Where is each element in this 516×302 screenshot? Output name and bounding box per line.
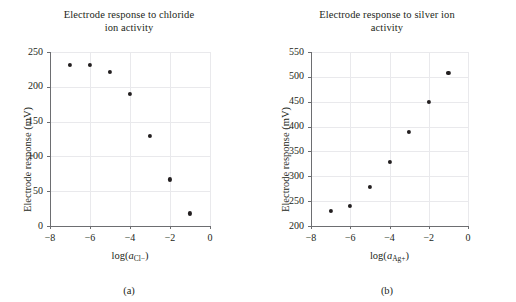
panel-a-caption: (a) xyxy=(0,285,258,296)
panel-a: Electrode response to chloride ion activ… xyxy=(0,0,258,302)
panel-b-y-tick-label: 300 xyxy=(271,170,304,181)
panel-a-gridline-vertical xyxy=(170,52,171,226)
panel-b-x-tick-label: −8 xyxy=(295,232,327,243)
panel-b-y-tick-label: 250 xyxy=(271,195,304,206)
panel-b-title-line1: Electrode response to silver ion xyxy=(319,9,455,20)
panel-b-y-tick-label: 350 xyxy=(271,145,304,156)
panel-a-data-point xyxy=(148,134,152,138)
panel-b-data-point xyxy=(348,204,352,208)
panel-a-xlabel-suffix: ) xyxy=(145,250,149,261)
panel-a-y-tick-label: 250 xyxy=(10,46,43,57)
figure-two-panel-scatter: Electrode response to chloride ion activ… xyxy=(0,0,516,302)
panel-a-title-line2: ion activity xyxy=(0,21,258,34)
panel-b-data-point xyxy=(368,185,372,189)
panel-a-x-tick-label: −2 xyxy=(154,232,186,243)
panel-a-y-tick-label: 0 xyxy=(10,220,43,231)
panel-b-plot-area: 200250300350400450500550−8−6−4−20 xyxy=(311,52,468,226)
panel-b-data-point xyxy=(387,160,391,164)
panel-b-xlabel-prefix: log( xyxy=(370,250,387,261)
panel-a-x-axis-line xyxy=(50,226,210,227)
panel-b-gridline-vertical xyxy=(350,52,351,226)
panel-b-xlabel-subscript: Ag+ xyxy=(392,254,405,263)
panel-b-y-tick-label: 500 xyxy=(271,70,304,81)
panel-b-x-axis-label: log(aAg+) xyxy=(311,250,468,263)
panel-a-y-tick-label: 100 xyxy=(10,150,43,161)
panel-b-title-line2: activity xyxy=(258,21,516,34)
panel-b-y-tick-label: 400 xyxy=(271,120,304,131)
panel-a-data-point xyxy=(128,92,132,96)
panel-b-x-tick xyxy=(468,226,469,229)
panel-b-caption: (b) xyxy=(258,285,516,296)
panel-b-x-tick-label: −2 xyxy=(413,232,445,243)
panel-a-y-tick-label: 150 xyxy=(10,115,43,126)
panel-b-y-tick-label: 550 xyxy=(271,46,304,57)
panel-a-data-point xyxy=(88,62,92,66)
panel-b-xlabel-suffix: ) xyxy=(406,250,410,261)
panel-a-data-point xyxy=(68,62,72,66)
panel-b-x-tick-label: −6 xyxy=(334,232,366,243)
panel-b-gridline-vertical xyxy=(468,52,469,226)
panel-a-xlabel-prefix: log( xyxy=(112,250,129,261)
panel-a-gridline-vertical xyxy=(210,52,211,226)
panel-b-data-point xyxy=(329,208,333,212)
panel-b-gridline-vertical xyxy=(429,52,430,226)
panel-a-title-line1: Electrode response to chloride xyxy=(64,9,194,20)
panel-a-x-tick xyxy=(210,226,211,229)
panel-a-plot-area: 050100150200250−8−6−4−20 xyxy=(50,52,210,226)
panel-b-y-axis-line xyxy=(311,52,312,226)
panel-b-title: Electrode response to silver ion activit… xyxy=(258,8,516,34)
panel-a-data-point xyxy=(168,177,172,181)
panel-b-data-point xyxy=(446,71,450,75)
panel-b-y-tick-label: 200 xyxy=(271,220,304,231)
panel-a-gridline-vertical xyxy=(130,52,131,226)
panel-a-y-axis-line xyxy=(50,52,51,226)
panel-a-x-tick-label: −8 xyxy=(34,232,66,243)
panel-a-y-tick-label: 200 xyxy=(10,80,43,91)
panel-b: Electrode response to silver ion activit… xyxy=(258,0,516,302)
panel-a-data-point xyxy=(188,211,192,215)
panel-a-xlabel-subscript: Cl− xyxy=(134,254,145,263)
panel-b-x-axis-line xyxy=(311,226,468,227)
panel-a-data-point xyxy=(108,70,112,74)
panel-a-title: Electrode response to chloride ion activ… xyxy=(0,8,258,34)
panel-b-x-tick-label: −4 xyxy=(374,232,406,243)
panel-b-data-point xyxy=(427,100,431,104)
panel-a-x-tick-label: −4 xyxy=(114,232,146,243)
panel-a-x-tick-label: 0 xyxy=(194,232,226,243)
panel-b-y-tick-label: 450 xyxy=(271,95,304,106)
panel-b-x-tick-label: 0 xyxy=(452,232,484,243)
panel-b-data-point xyxy=(407,130,411,134)
panel-a-gridline-vertical xyxy=(90,52,91,226)
panel-a-x-tick-label: −6 xyxy=(74,232,106,243)
panel-a-x-axis-label: log(aCl−) xyxy=(50,250,210,263)
panel-a-y-tick-label: 50 xyxy=(10,185,43,196)
panel-b-gridline-vertical xyxy=(390,52,391,226)
